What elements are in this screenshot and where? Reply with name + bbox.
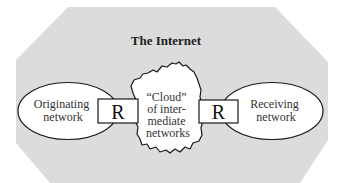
- cloud-label: “Cloud” of inter- mediate networks: [146, 90, 190, 140]
- receiving-network-label: Receiving network: [250, 97, 302, 124]
- router-left-label: R: [111, 101, 125, 123]
- internet-diagram: The Internet Originating network Receivi…: [0, 0, 340, 183]
- router-right-label: R: [212, 101, 226, 123]
- diagram-title: The Internet: [131, 33, 202, 48]
